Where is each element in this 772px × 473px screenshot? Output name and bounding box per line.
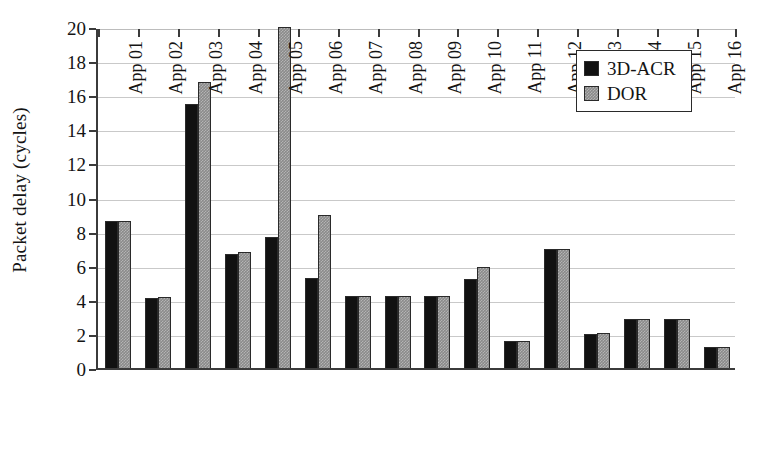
bar-dor[interactable] — [238, 252, 251, 368]
y-tick-label: 0 — [50, 360, 86, 379]
bar-dor[interactable] — [398, 296, 411, 368]
bar-3d-acr[interactable] — [464, 279, 477, 368]
legend-swatch-dor — [584, 86, 599, 101]
bar-dor[interactable] — [677, 319, 690, 368]
x-tick-mark — [697, 29, 699, 37]
x-tick-mark — [537, 29, 539, 37]
y-tick-mark — [89, 267, 96, 269]
x-tick-mark — [98, 29, 100, 37]
x-tick-label: App 06 — [326, 41, 347, 141]
legend-label-3d-acr: 3D-ACR — [607, 59, 676, 78]
x-tick-mark — [378, 29, 380, 37]
y-axis-title: Packet delay (cycles) — [0, 0, 40, 380]
x-tick-mark — [258, 29, 260, 37]
y-tick-mark — [89, 96, 96, 98]
y-tick-label: 18 — [50, 53, 86, 72]
bar-3d-acr[interactable] — [544, 249, 557, 368]
legend-label-dor: DOR — [607, 84, 647, 103]
y-tick-mark — [89, 335, 96, 337]
bar-dor[interactable] — [517, 341, 530, 368]
x-tick-label: App 07 — [366, 41, 387, 141]
bar-3d-acr[interactable] — [185, 104, 198, 368]
legend-item-series-b: DOR — [584, 81, 684, 106]
bar-3d-acr[interactable] — [345, 296, 358, 368]
y-tick-label: 6 — [50, 258, 86, 277]
bar-3d-acr[interactable] — [305, 278, 318, 368]
x-tick-mark — [338, 29, 340, 37]
bar-dor[interactable] — [318, 215, 331, 368]
legend-item-series-a: 3D-ACR — [584, 56, 684, 81]
bar-3d-acr[interactable] — [385, 296, 398, 368]
x-tick-label: App 08 — [406, 41, 427, 141]
y-tick-label: 14 — [50, 121, 86, 140]
x-tick-label: App 03 — [206, 41, 227, 141]
y-tick-label: 10 — [50, 190, 86, 209]
x-tick-label: App 11 — [525, 41, 546, 141]
bar-3d-acr[interactable] — [105, 221, 118, 368]
x-tick-mark — [497, 29, 499, 37]
bar-3d-acr[interactable] — [624, 319, 637, 368]
x-tick-label: App 04 — [246, 41, 267, 141]
bar-3d-acr[interactable] — [145, 298, 158, 368]
x-tick-label: App 16 — [725, 41, 746, 141]
x-tick-label: App 02 — [166, 41, 187, 141]
y-tick-mark — [89, 62, 96, 64]
bar-dor[interactable] — [717, 347, 730, 368]
bar-dor[interactable] — [358, 296, 371, 368]
y-tick-label: 20 — [50, 19, 86, 38]
bar-3d-acr[interactable] — [584, 334, 597, 368]
bar-chart-figure: Packet delay (cycles) 02468101214161820 … — [0, 0, 772, 473]
y-tick-label: 4 — [50, 292, 86, 311]
x-tick-mark — [178, 29, 180, 37]
x-tick-mark — [457, 29, 459, 37]
y-axis-title-text: Packet delay (cycles) — [9, 107, 31, 273]
y-tick-mark — [89, 130, 96, 132]
x-tick-label: App 05 — [286, 41, 307, 141]
bar-dor[interactable] — [557, 249, 570, 368]
bar-dor[interactable] — [158, 297, 171, 368]
bar-3d-acr[interactable] — [704, 347, 717, 368]
y-tick-mark — [89, 28, 96, 30]
y-tick-label: 16 — [50, 87, 86, 106]
legend-swatch-3d-acr — [584, 61, 599, 76]
chart-legend: 3D-ACR DOR — [576, 50, 692, 112]
x-tick-label: App 10 — [485, 41, 506, 141]
x-tick-mark — [218, 29, 220, 37]
bar-dor[interactable] — [118, 221, 131, 368]
y-tick-mark — [89, 164, 96, 166]
y-tick-label: 12 — [50, 155, 86, 174]
x-tick-mark — [418, 29, 420, 37]
bar-dor[interactable] — [597, 333, 610, 368]
bar-3d-acr[interactable] — [664, 319, 677, 368]
x-tick-label: App 09 — [445, 41, 466, 141]
x-tick-mark — [577, 29, 579, 37]
x-tick-mark — [617, 29, 619, 37]
bar-3d-acr[interactable] — [265, 237, 278, 368]
x-tick-mark — [298, 29, 300, 37]
bar-dor[interactable] — [637, 319, 650, 368]
bar-dor[interactable] — [437, 296, 450, 368]
y-tick-label: 8 — [50, 224, 86, 243]
x-tick-label: App 01 — [126, 41, 147, 141]
y-tick-mark — [89, 199, 96, 201]
bar-3d-acr[interactable] — [504, 341, 517, 368]
y-tick-label: 2 — [50, 326, 86, 345]
x-tick-mark — [735, 29, 737, 37]
y-tick-mark — [89, 233, 96, 235]
x-tick-mark — [138, 29, 140, 37]
bar-3d-acr[interactable] — [424, 296, 437, 368]
bar-3d-acr[interactable] — [225, 254, 238, 368]
bar-dor[interactable] — [477, 267, 490, 368]
y-tick-mark — [89, 369, 96, 371]
x-tick-mark — [657, 29, 659, 37]
y-tick-mark — [89, 301, 96, 303]
